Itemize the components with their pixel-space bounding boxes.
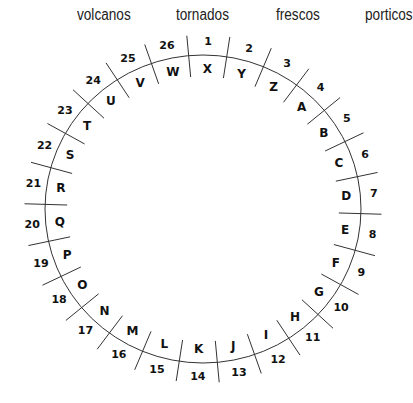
segment-number: 13	[231, 366, 246, 379]
segment-divider	[307, 98, 340, 125]
segment-letter: G	[314, 285, 324, 299]
segment-letter: P	[63, 248, 72, 262]
segment-number: 1	[204, 35, 212, 48]
segment-number: 18	[51, 293, 66, 306]
segment-letter: Q	[55, 215, 65, 229]
segment-letter: M	[126, 324, 138, 338]
segment-letter: F	[332, 256, 340, 270]
segment-letter: N	[99, 304, 109, 318]
segment-letter: Y	[236, 67, 246, 81]
segment-number: 3	[283, 57, 291, 70]
segment-divider	[106, 63, 129, 98]
segment-divider	[247, 334, 261, 373]
segment-number: 26	[159, 39, 175, 52]
segment-number: 6	[361, 148, 369, 161]
segment-number: 23	[57, 104, 72, 117]
segment-letter: I	[264, 328, 268, 342]
segment-letter: S	[66, 148, 75, 162]
segment-number: 11	[305, 331, 320, 344]
segment-number: 16	[111, 348, 127, 361]
segment-letter: U	[106, 94, 116, 108]
segment-number: 19	[33, 257, 48, 270]
segment-divider	[47, 124, 84, 144]
segment-letter: B	[319, 126, 328, 140]
segment-number: 17	[78, 324, 93, 337]
segment-number: 8	[369, 228, 377, 241]
segment-number: 14	[190, 370, 206, 383]
segment-number: 5	[343, 112, 351, 125]
segment-number: 22	[37, 139, 52, 152]
segment-letter: L	[161, 337, 169, 351]
segment-number: 7	[370, 187, 378, 200]
segment-number: 12	[270, 353, 285, 366]
segment-divider	[25, 204, 68, 205]
segment-letter: D	[341, 189, 351, 203]
segment-divider	[277, 320, 300, 355]
segment-letter: W	[166, 65, 179, 79]
segment-letter: C	[334, 156, 343, 170]
segment-number: 21	[26, 177, 41, 190]
segment-letter: A	[297, 100, 307, 114]
segment-divider	[66, 294, 99, 321]
wheel-ring	[45, 55, 361, 363]
segment-letter: K	[194, 342, 204, 356]
segment-number: 15	[149, 363, 164, 376]
segment-number: 10	[333, 301, 349, 314]
segment-divider	[187, 36, 191, 77]
segment-letter: H	[290, 310, 300, 324]
segment-divider	[284, 69, 309, 102]
segment-letter: R	[56, 181, 65, 195]
segment-number: 4	[317, 81, 325, 94]
segment-divider	[321, 274, 358, 294]
segment-letter: E	[341, 223, 349, 237]
segment-divider	[339, 213, 382, 214]
segment-divider	[325, 133, 363, 151]
segment-letter: X	[203, 62, 213, 76]
segment-letter: J	[230, 339, 235, 353]
segment-number: 9	[358, 266, 366, 279]
segment-divider	[73, 90, 104, 118]
segment-divider	[215, 341, 219, 382]
segment-divider	[145, 45, 159, 84]
segment-divider	[302, 300, 333, 328]
segment-number: 24	[86, 74, 102, 87]
segment-number: 20	[25, 218, 41, 231]
segment-number: 2	[245, 42, 253, 55]
segment-letter: V	[135, 76, 145, 90]
segment-letter: Z	[269, 80, 278, 94]
segment-divider	[97, 316, 122, 349]
segment-number: 25	[120, 52, 135, 65]
segment-letter: T	[83, 119, 92, 133]
segment-letter: O	[77, 278, 87, 292]
segment-labels: 1X2Y3Z4A5B6C7D8E9F10G11H12I13J14K15L16M1…	[25, 35, 378, 382]
